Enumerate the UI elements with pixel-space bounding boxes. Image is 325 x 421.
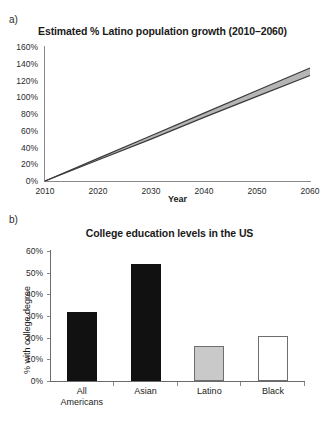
- panel-b-x-axis: [50, 381, 305, 382]
- category-label-black: Black: [233, 386, 313, 397]
- panel-a-x-axis-label: Year: [44, 194, 311, 204]
- panel-b-y-tick-mark: [47, 316, 50, 317]
- panel-a-y-tick-label: 0%: [0, 176, 38, 186]
- upper-bound-line: [45, 68, 310, 181]
- panel-b-y-tick-label: 30%: [0, 311, 43, 321]
- panel-b-y-axis: [50, 250, 51, 382]
- panel-a-y-tick-label: 140%: [0, 59, 38, 69]
- panel-b-x-tick-mark: [304, 382, 305, 386]
- panel-b-y-tick-mark: [47, 338, 50, 339]
- panel-b-y-tick-label: 50%: [0, 268, 43, 278]
- panel-b-title: College education levels in the US: [0, 227, 325, 239]
- panel-a-y-tick-label: 80%: [0, 109, 38, 119]
- panel-b-y-tick-label: 10%: [0, 354, 43, 364]
- panel-a-y-tick-label: 160%: [0, 42, 38, 52]
- panel-b-y-tick-label: 20%: [0, 333, 43, 343]
- panel-a-y-tick-label: 60%: [0, 126, 38, 136]
- panel-a-y-tick-label: 100%: [0, 92, 38, 102]
- panel-a-y-tick-label: 40%: [0, 143, 38, 153]
- bar-latino[interactable]: [194, 346, 224, 381]
- panel-a-y-tick-label: 120%: [0, 76, 38, 86]
- panel-b-y-tick-mark: [47, 359, 50, 360]
- panel-b-y-tick-mark: [47, 251, 50, 252]
- panel-b-bar-chart: b) College education levels in the US % …: [0, 212, 325, 421]
- panel-b-y-tick-label: 0%: [0, 376, 43, 386]
- panel-a-y-tick-label: 20%: [0, 159, 38, 169]
- panel-a-title: Estimated % Latino population growth (20…: [0, 25, 325, 37]
- panel-b-y-tick-mark: [47, 273, 50, 274]
- lower-bound-line: [45, 75, 310, 181]
- panel-a-series-svg: [44, 46, 311, 182]
- panel-b-y-tick-mark: [47, 381, 50, 382]
- panel-a-line-chart: a) Estimated % Latino population growth …: [0, 0, 325, 212]
- panel-b-plot-area: [50, 250, 305, 382]
- panel-a-letter: a): [9, 14, 18, 25]
- panel-b-y-tick-mark: [47, 294, 50, 295]
- panel-b-y-tick-label: 60%: [0, 246, 43, 256]
- panel-b-y-tick-label: 40%: [0, 289, 43, 299]
- bar-all-americans[interactable]: [67, 312, 97, 381]
- bar-asian[interactable]: [131, 264, 161, 381]
- panel-a-plot-area: [44, 46, 311, 182]
- bar-black[interactable]: [258, 336, 288, 382]
- panel-b-letter: b): [9, 214, 18, 225]
